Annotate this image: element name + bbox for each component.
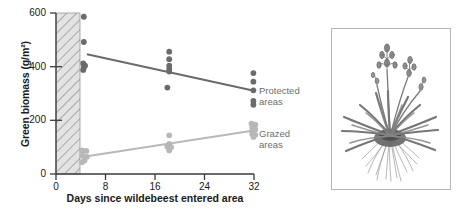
series-label-protected: Protected areas <box>259 86 300 107</box>
data-point <box>166 56 172 62</box>
x-tick-label-24: 24 <box>193 181 217 192</box>
data-point <box>81 39 87 45</box>
data-point <box>250 134 256 140</box>
data-point <box>80 67 86 73</box>
x-tick-label-16: 16 <box>143 181 167 192</box>
protected-data-points <box>80 14 256 108</box>
chart-panel: 600 400 200 0 0 8 16 24 32 Green biomass… <box>0 0 300 211</box>
y-tick-label-0: 0 <box>16 168 46 179</box>
data-point <box>164 85 170 91</box>
data-point <box>250 79 256 85</box>
plant-illustration-panel <box>331 28 451 190</box>
y-axis-title: Green biomass (g/m²) <box>19 34 31 154</box>
grass-plant-illustration <box>332 29 450 189</box>
x-tick-label-8: 8 <box>94 181 118 192</box>
y-tick-label-600: 600 <box>16 7 46 18</box>
data-point <box>83 148 89 154</box>
grazing-period-band <box>56 13 80 174</box>
data-point <box>250 70 256 76</box>
x-tick-label-0: 0 <box>44 181 68 192</box>
data-point <box>250 87 256 93</box>
x-axis-title: Days since wildebeest entered area <box>30 192 280 204</box>
data-point <box>166 69 172 75</box>
data-point <box>79 159 85 165</box>
data-point <box>166 147 172 153</box>
series-label-grazed: Grazed areas <box>259 129 290 150</box>
scatter-plot <box>0 0 300 211</box>
data-point <box>81 14 87 20</box>
data-point <box>250 102 256 108</box>
data-point <box>166 132 172 138</box>
grazed-data-points <box>79 121 258 165</box>
x-tick-label-32: 32 <box>242 181 266 192</box>
data-point <box>166 49 172 55</box>
figure-root: 600 400 200 0 0 8 16 24 32 Green biomass… <box>0 0 466 211</box>
